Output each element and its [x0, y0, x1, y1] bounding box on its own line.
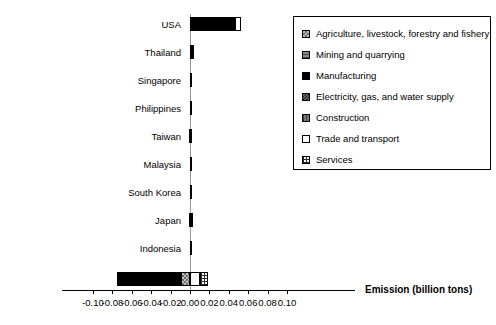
legend-swatch-manu-icon	[302, 72, 310, 80]
x-axis-tick	[268, 290, 269, 294]
x-axis-tick	[190, 290, 191, 294]
bar-segment-trad	[235, 17, 240, 31]
bar-segment-manu	[190, 157, 192, 171]
x-axis-tick	[209, 290, 210, 294]
bar-segment-elec	[117, 272, 119, 286]
legend-item-serv[interactable]: Services	[302, 154, 352, 165]
bar-segment-trad	[190, 272, 200, 286]
x-axis-title: Emission (billion tons)	[365, 284, 472, 295]
bar-segment-manu	[190, 241, 192, 255]
bar-segment-serv	[200, 272, 209, 286]
x-axis-tick-label: 0.10	[267, 297, 307, 308]
bar-segment-manu	[190, 129, 192, 143]
bar-row-south-korea	[0, 185, 496, 199]
x-axis-tick	[93, 290, 94, 294]
x-axis-tick	[151, 290, 152, 294]
x-axis-tick	[229, 290, 230, 294]
legend-box: Agriculture, livestock, forestry and fis…	[293, 16, 491, 170]
bar-segment-manu	[190, 185, 192, 199]
legend-item-agri[interactable]: Agriculture, livestock, forestry and fis…	[302, 28, 489, 39]
x-axis-tick	[132, 290, 133, 294]
legend-swatch-mine-icon	[302, 51, 310, 59]
x-axis-tick	[171, 290, 172, 294]
emission-bar-chart: USAThailandSingaporePhilippinesTaiwanMal…	[0, 0, 496, 325]
x-axis-tick	[287, 290, 288, 294]
legend-swatch-serv-icon	[302, 156, 310, 164]
legend-swatch-cons-icon	[302, 114, 310, 122]
legend-swatch-elec-icon	[302, 93, 310, 101]
bar-segment-manu	[117, 272, 179, 286]
legend-item-trad[interactable]: Trade and transport	[302, 133, 399, 144]
bar-segment-manu	[190, 73, 192, 87]
legend-label: Services	[316, 154, 352, 165]
legend-label: Electricity, gas, and water supply	[316, 91, 454, 102]
legend-item-manu[interactable]: Manufacturing	[302, 70, 376, 81]
bar-segment-mine	[179, 272, 181, 286]
bar-segment-elec	[191, 213, 193, 227]
legend-label: Trade and transport	[316, 133, 399, 144]
bar-segment-agri	[181, 272, 190, 286]
bar-segment-manu	[190, 101, 192, 115]
legend-item-elec[interactable]: Electricity, gas, and water supply	[302, 91, 454, 102]
legend-swatch-agri-icon	[302, 30, 310, 38]
bar-row-indonesia	[0, 241, 496, 255]
bar-row-japan	[0, 213, 496, 227]
bar-segment-manu	[190, 45, 194, 59]
x-axis-tick	[112, 290, 113, 294]
legend-label: Mining and quarrying	[316, 49, 405, 60]
legend-swatch-trad-icon	[302, 135, 310, 143]
x-axis-tick	[248, 290, 249, 294]
bar-segment-manu	[191, 17, 235, 31]
legend-label: Manufacturing	[316, 70, 376, 81]
legend-item-mine[interactable]: Mining and quarrying	[302, 49, 405, 60]
legend-label: Agriculture, livestock, forestry and fis…	[316, 28, 489, 39]
legend-label: Construction	[316, 112, 369, 123]
legend-item-cons[interactable]: Construction	[302, 112, 369, 123]
